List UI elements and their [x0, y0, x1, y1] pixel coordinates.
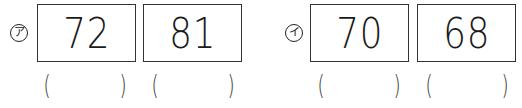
open-paren: (: [152, 70, 159, 100]
open-paren: (: [44, 70, 51, 100]
number-box: 81: [143, 4, 242, 62]
number-box: 68: [417, 4, 516, 62]
number-value: 72: [63, 9, 110, 58]
close-paren: ): [501, 70, 508, 100]
open-paren: (: [426, 70, 433, 100]
number-box: 70: [310, 4, 409, 62]
close-paren: ): [119, 70, 126, 100]
answer-blank[interactable]: (): [316, 70, 402, 100]
answer-blank[interactable]: (): [424, 70, 510, 100]
number-value: 70: [336, 9, 383, 58]
answer-blank[interactable]: (): [42, 70, 128, 100]
answer-blank[interactable]: (): [150, 70, 236, 100]
close-paren: ): [393, 70, 400, 100]
close-paren: ): [227, 70, 234, 100]
open-paren: (: [318, 70, 325, 100]
number-value: 68: [443, 9, 490, 58]
label-i: イ: [285, 24, 303, 42]
label-a: ア: [10, 24, 28, 42]
number-box: 72: [37, 4, 136, 62]
number-value: 81: [169, 9, 216, 58]
